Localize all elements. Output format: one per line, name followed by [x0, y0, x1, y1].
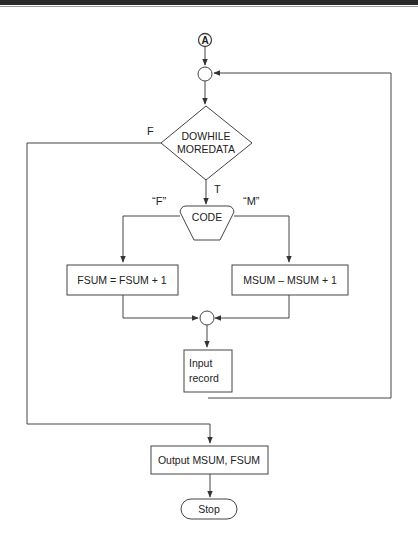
decision-line2: MOREDATA: [177, 143, 235, 155]
decision-line1: DOWHILE: [181, 130, 230, 142]
stop-label: Stop: [198, 503, 220, 515]
case-left-branch: “F”: [152, 195, 166, 207]
case-right-branch: “M”: [243, 195, 260, 207]
merge-junction: [200, 311, 214, 325]
connector-label: A: [201, 35, 208, 46]
input-line2: record: [189, 372, 219, 384]
output-label: Output MSUM, FSUM: [158, 454, 260, 466]
fsum-label: FSUM = FSUM + 1: [77, 274, 166, 286]
msum-label: MSUM – MSUM + 1: [243, 274, 337, 286]
input-line1: Input: [189, 357, 212, 369]
decision-true-label: T: [214, 183, 221, 195]
decision-false-label: F: [147, 125, 154, 137]
case-label: CODE: [192, 211, 222, 223]
loop-junction: [198, 67, 212, 81]
flowchart: A DOWHILE MOREDATA F T CODE “F” “M” FSUM…: [0, 0, 418, 552]
